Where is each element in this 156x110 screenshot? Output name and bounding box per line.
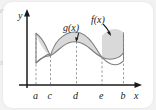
y-axis-arrow-icon [24, 9, 30, 17]
tick-label-d: d [73, 90, 79, 101]
margin-text-fragment-top: e [0, 6, 4, 15]
curve-g-left-segment [36, 56, 51, 63]
x-axis-label: x [133, 90, 139, 101]
area-between-curves-chart: y x f(x) g(x) a c d e b [3, 2, 153, 108]
x-axis-arrow-icon [135, 82, 143, 88]
tick-label-a: a [33, 90, 38, 101]
tick-label-e: e [99, 90, 104, 101]
curve-label-f: f(x) [91, 14, 106, 26]
figure-container: y x f(x) g(x) a c d e b e s [0, 0, 156, 110]
tick-label-b: b [121, 90, 126, 101]
shaded-area-middle [51, 32, 103, 57]
shaded-area-right [102, 29, 124, 59]
y-axis-label: y [17, 10, 23, 21]
figure-card-surface: y x f(x) g(x) a c d e b [3, 2, 153, 108]
margin-text-fragment-middle: s [0, 58, 3, 67]
tick-label-c: c [48, 90, 53, 101]
curve-label-g: g(x) [63, 22, 80, 34]
